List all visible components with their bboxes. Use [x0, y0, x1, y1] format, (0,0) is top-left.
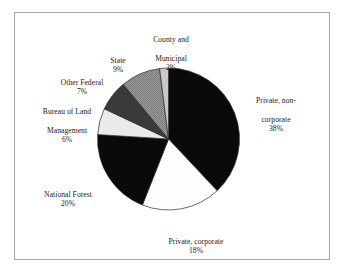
- slice-label-text: Private, corporate: [169, 237, 224, 246]
- slice-percent: 38%: [243, 124, 309, 134]
- slice-label-text: County and: [153, 35, 189, 44]
- slice-label-state: State 9%: [96, 46, 140, 84]
- slice-percent: 20%: [26, 199, 110, 209]
- slice-label-text: National Forest: [44, 190, 92, 199]
- slice-label-county-and-municipal: County and Municipal 2%: [137, 25, 205, 83]
- slice-label-text-2: Management: [47, 126, 87, 135]
- slice-percent: 18%: [150, 246, 242, 256]
- slice-label-national-forest: National Forest 20%: [26, 180, 110, 218]
- slice-label-text: Bureau of Land: [43, 107, 91, 116]
- slice-label-text: Private, non-: [256, 96, 296, 105]
- slice-label-text-2: corporate: [261, 115, 290, 124]
- slice-percent: 7%: [44, 87, 120, 97]
- slice-label-private-non-corporate: Private, non- corporate 38%: [243, 86, 309, 144]
- slice-label-private-corporate: Private, corporate 18%: [150, 227, 242, 265]
- slice-percent: 9%: [96, 65, 140, 75]
- pie-container: Private, non- corporate 38% Private, cor…: [0, 0, 344, 278]
- pie-chart-figure: Private, non- corporate 38% Private, cor…: [0, 0, 344, 278]
- slice-label-text-2: Municipal: [155, 54, 187, 63]
- slice-percent: 2%: [137, 63, 205, 73]
- slice-percent: 6%: [28, 135, 106, 145]
- slice-label-text: State: [110, 56, 125, 65]
